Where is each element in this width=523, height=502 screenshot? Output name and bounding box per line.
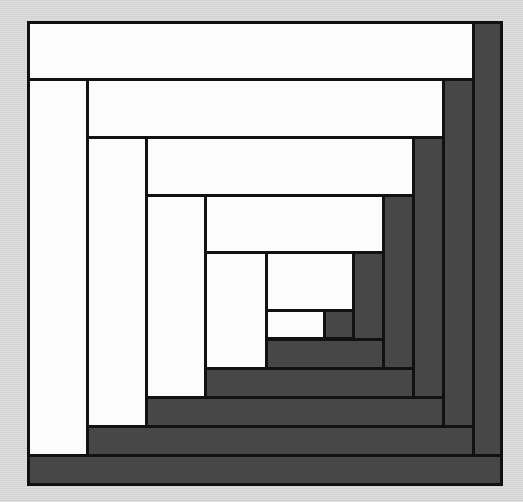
quilt-piece-r2-left	[146, 195, 206, 398]
quilt-piece-r3-bottom	[146, 397, 444, 427]
quilt-piece-r2-bottom	[205, 368, 414, 398]
quilt-piece-r4-top	[87, 79, 444, 138]
log-cabin-quilt-diagram	[0, 0, 523, 502]
quilt-piece-r5-bottom	[27, 455, 503, 486]
quilt-piece-r1-right	[353, 252, 384, 340]
quilt-piece-r1-top	[266, 252, 354, 311]
quilt-piece-r3-top	[146, 137, 414, 196]
quilt-piece-r5-right	[473, 21, 503, 456]
quilt-piece-r2-top	[205, 195, 384, 253]
quilt-piece-center-light	[266, 310, 325, 339]
quilt-piece-r4-right	[443, 79, 474, 427]
quilt-piece-r1-left	[205, 252, 267, 369]
quilt-piece-r3-left	[87, 137, 147, 427]
quilt-piece-center-dark	[324, 310, 354, 339]
quilt-piece-r5-top	[27, 21, 474, 80]
quilt-piece-r4-bottom	[87, 426, 474, 456]
quilt-piece-r3-right	[413, 137, 444, 398]
quilt-piece-r2-right	[383, 195, 414, 369]
quilt-piece-r4-left	[27, 79, 88, 456]
quilt-piece-r1-bottom	[266, 339, 384, 369]
